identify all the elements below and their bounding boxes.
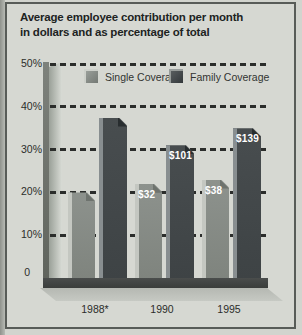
x-label-1995: 1995	[199, 303, 259, 315]
y-tick-0: 0	[16, 266, 30, 278]
bar-family-1995: $139	[233, 128, 261, 278]
y-tick-30: 30%	[10, 143, 42, 155]
x-axis-base-bar	[43, 278, 268, 288]
chart-title-line1: Average employee contribution per month	[20, 10, 282, 25]
y-axis-bar-face	[49, 62, 62, 278]
y-tick-40: 40%	[10, 100, 42, 112]
bar-single-1995: $38	[202, 180, 229, 278]
y-tick-20: 20%	[10, 185, 42, 197]
legend-label-family-coverage: Family Coverage	[190, 71, 269, 83]
scanned-chart-figure: Average employee contribution per month …	[0, 0, 302, 335]
y-tick-10: 10%	[10, 228, 42, 240]
bar-family-1988	[99, 118, 127, 279]
gridline-40pct	[50, 105, 266, 108]
bar-value-label-1990: $101	[169, 150, 194, 161]
bar-single-1988	[68, 192, 95, 278]
chart-title-line2: in dollars and as percentage of total	[20, 25, 282, 40]
bar-value-label-1995: $139	[236, 133, 261, 144]
x-label-1990: 1990	[132, 303, 192, 315]
x-label-1988: 1988*	[65, 303, 125, 315]
chart-stage: Average employee contribution per month …	[0, 0, 302, 335]
bar-top-facet	[118, 118, 127, 127]
bar-family-1990: $101	[166, 145, 194, 278]
y-axis-3d-bar	[43, 62, 62, 278]
legend-swatch-single-coverage	[84, 69, 98, 83]
y-axis-bar-shadow-side	[43, 62, 49, 278]
chart-floor-shadow	[40, 288, 286, 301]
chart-title: Average employee contribution per month …	[20, 10, 282, 40]
legend-swatch-family-coverage	[169, 69, 183, 83]
y-tick-50: 50%	[10, 57, 42, 69]
gridline-50pct	[50, 63, 266, 66]
bar-single-1990: $32	[135, 184, 162, 278]
bar-value-label-1990: $32	[138, 189, 162, 200]
bar-value-label-1995: $38	[205, 185, 229, 196]
